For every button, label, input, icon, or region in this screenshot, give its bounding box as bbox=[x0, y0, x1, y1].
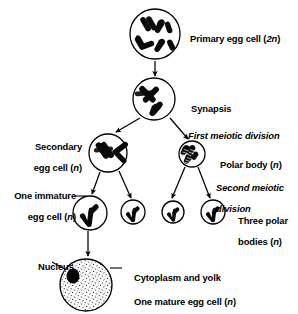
arrow-polar-body-to-polar-body-2 bbox=[172, 167, 185, 198]
label-one-immature-egg-cell: One immature egg cell (n) bbox=[0, 180, 76, 233]
secondary-egg-cell bbox=[89, 134, 128, 172]
arrow-synapsis-to-secondary bbox=[116, 118, 140, 132]
label-first-meiotic-division: First meiotic division bbox=[178, 120, 280, 152]
label-nucleus: Nucleus bbox=[28, 251, 74, 283]
arrow-secondary-to-polar-body-1 bbox=[119, 171, 131, 198]
oogenesis-diagram: Primary egg cell (2n) Synapsis First mei… bbox=[0, 0, 298, 314]
polar-body-1 bbox=[121, 200, 145, 224]
label-three-polar-bodies: Three polar bodies (n) bbox=[228, 205, 288, 258]
primary-egg-cell bbox=[130, 9, 180, 59]
immature-egg-cell bbox=[73, 196, 107, 230]
polar-body-2 bbox=[162, 201, 184, 223]
label-one-mature-egg-cell: One mature egg cell (n) bbox=[124, 286, 236, 314]
label-primary-egg-cell: Primary egg cell (2n) bbox=[180, 23, 280, 55]
label-secondary-egg-cell: Secondary egg cell (n) bbox=[0, 131, 82, 184]
arrow-secondary-to-immature bbox=[92, 172, 100, 194]
synapsis-cell bbox=[133, 78, 175, 120]
